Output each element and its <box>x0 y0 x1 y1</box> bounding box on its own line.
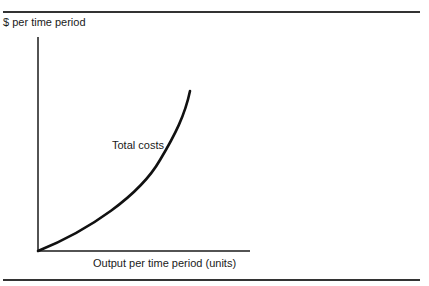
x-axis-label: Output per time period (units) <box>93 257 236 269</box>
total-costs-label: Total costs <box>112 139 164 151</box>
chart-plot <box>0 0 429 286</box>
total-costs-curve <box>38 91 190 251</box>
